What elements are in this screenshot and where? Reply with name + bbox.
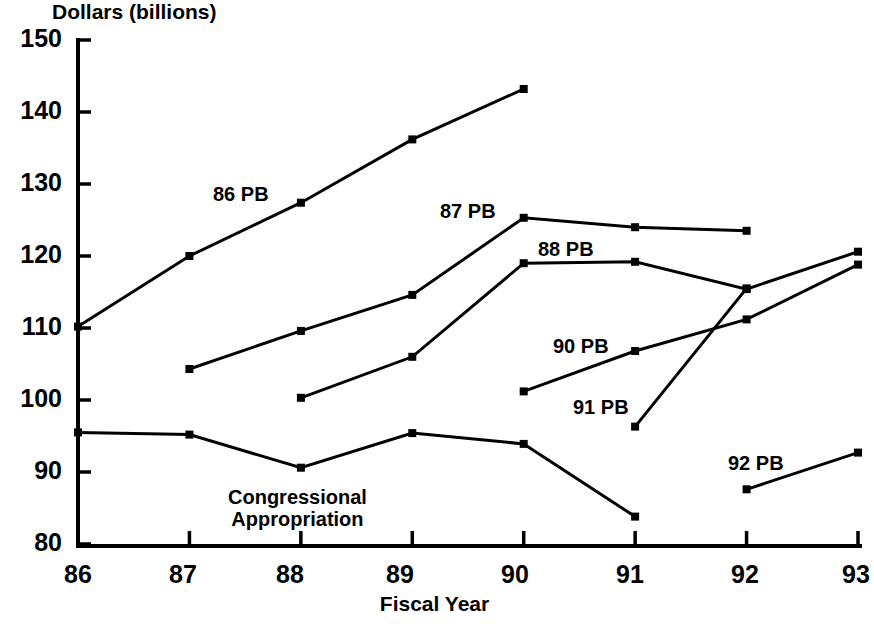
data-point-marker (74, 323, 82, 331)
data-point-marker (631, 513, 639, 521)
data-point-marker (185, 252, 193, 260)
data-point-marker (297, 464, 305, 472)
x-ticks-group (78, 531, 858, 544)
data-point-marker (520, 85, 528, 93)
series-line (189, 218, 746, 369)
data-point-marker (408, 291, 416, 299)
data-point-marker (74, 428, 82, 436)
series-lines-group (74, 85, 862, 521)
data-point-marker (631, 423, 639, 431)
series-line (301, 252, 858, 398)
series-line (635, 288, 747, 426)
series-line (78, 432, 635, 516)
data-point-marker (297, 199, 305, 207)
data-point-marker (408, 135, 416, 143)
data-point-marker (854, 449, 862, 457)
data-point-marker (743, 227, 751, 235)
data-point-marker (631, 258, 639, 266)
data-point-marker (297, 327, 305, 335)
series-92-pb (743, 449, 862, 494)
data-point-marker (743, 315, 751, 323)
series-87-pb (185, 214, 750, 373)
data-point-marker (408, 353, 416, 361)
series-line (524, 265, 858, 392)
data-point-marker (520, 259, 528, 267)
data-point-marker (854, 261, 862, 269)
data-point-marker (631, 347, 639, 355)
series-86-pb (74, 85, 528, 331)
series-91-pb (631, 284, 751, 430)
series-90-pb (520, 261, 862, 396)
data-point-marker (408, 429, 416, 437)
data-point-marker (297, 394, 305, 402)
data-point-marker (520, 387, 528, 395)
data-point-marker (743, 485, 751, 493)
data-point-marker (520, 440, 528, 448)
data-point-marker (185, 431, 193, 439)
series-line (747, 453, 858, 490)
series-88-pb (297, 248, 862, 402)
data-point-marker (185, 365, 193, 373)
series-line (78, 89, 524, 327)
data-point-marker (854, 248, 862, 256)
data-point-marker (631, 223, 639, 231)
series-congressional-appropriation (74, 428, 639, 520)
data-point-marker (520, 214, 528, 222)
data-point-marker (743, 284, 751, 292)
